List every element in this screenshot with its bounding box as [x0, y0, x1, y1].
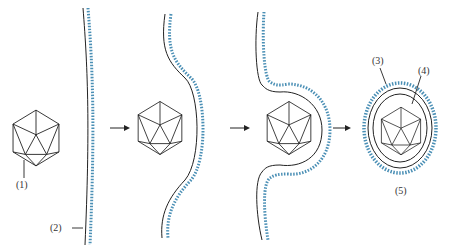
- virus-capsid-stage1: [13, 110, 59, 166]
- virus-capsid-stage3: [267, 101, 311, 154]
- arrow-3: [333, 125, 351, 131]
- label-5: (5): [395, 185, 407, 197]
- virus-capsid-stage2: [138, 101, 182, 154]
- leader-line-4: [412, 76, 421, 104]
- label-4: (4): [418, 65, 430, 77]
- enveloped-virion: [364, 83, 436, 173]
- membrane-stage2: [162, 14, 203, 238]
- label-1: (1): [16, 179, 28, 191]
- arrow-1: [110, 125, 130, 131]
- label-3: (3): [372, 55, 384, 67]
- membrane-stage1: [83, 8, 93, 245]
- leader-line-3: [380, 68, 386, 84]
- arrow-2: [230, 125, 250, 131]
- label-2: (2): [50, 222, 62, 234]
- budding-diagram: (1) (2) (3) (: [0, 0, 450, 250]
